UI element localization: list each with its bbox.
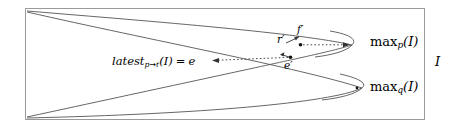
f-prime-label: f′ — [297, 24, 303, 35]
max-q-base: max — [370, 79, 397, 94]
interval-label: I — [435, 55, 440, 68]
max-q-arg: (I) — [403, 79, 418, 94]
e-prime-label: e′ — [284, 60, 293, 71]
latest-label: latestp→r(I)=e — [112, 56, 195, 69]
r-prime-label: r′ — [277, 34, 284, 45]
max-p-arg: (I) — [403, 34, 418, 49]
max-q-label: maxq(I) — [370, 80, 418, 95]
f-prime-point — [299, 43, 303, 47]
figure-canvas: latestp→r(I)=e maxp(I) maxq(I) I r′ f′ e… — [0, 0, 457, 130]
latest-value: e — [188, 54, 195, 68]
figure-vector — [0, 0, 457, 130]
latest-arg: (I) — [159, 54, 173, 68]
latest-equals: = — [176, 54, 186, 68]
max-p-label: maxp(I) — [370, 35, 418, 50]
max-q-point — [356, 87, 359, 90]
max-p-base: max — [370, 34, 397, 49]
latest-prefix: latest — [112, 54, 144, 68]
